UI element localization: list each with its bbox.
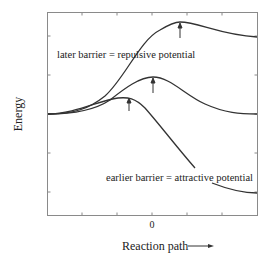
x-axis-label: Reaction path: [122, 239, 188, 253]
x-tick-zero: 0: [150, 219, 155, 230]
annotation-later-barrier: later barrier = repulsive potential: [57, 49, 195, 60]
x-ticks: [82, 13, 222, 216]
curves: [48, 22, 257, 193]
energy-profile-chart: later barrier = repulsive potential earl…: [0, 0, 269, 260]
curve-earlier-barrier-tail: [212, 183, 257, 193]
plot-frame: [48, 13, 258, 216]
x-axis-arrow: [188, 244, 214, 248]
y-axis-label: Energy: [11, 97, 25, 131]
barrier-arrows: [127, 23, 182, 111]
curve-earlier-barrier: [48, 98, 195, 168]
arrow-up-icon: [151, 78, 155, 83]
arrow-right-icon: [208, 244, 214, 248]
curve-later-barrier: [48, 22, 257, 114]
arrow-up-icon: [178, 23, 182, 28]
annotation-earlier-barrier: earlier barrier = attractive potential: [106, 172, 253, 183]
